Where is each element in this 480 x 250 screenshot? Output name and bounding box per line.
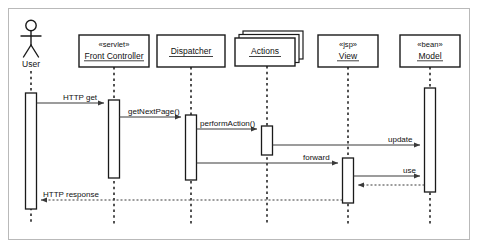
activation-model xyxy=(425,88,436,192)
message-get-next-page[interactable]: getNextPage() xyxy=(120,107,182,118)
message-http-get[interactable]: HTTP get xyxy=(37,93,105,104)
message-label-perform-action: performAction() xyxy=(200,119,255,128)
message-label-http-response: HTTP response xyxy=(43,190,99,199)
actor-icon xyxy=(21,20,41,57)
lifeline-view[interactable]: «jsp» View xyxy=(318,35,378,225)
lifeline-label-user: User xyxy=(22,59,40,69)
lifeline-actions[interactable]: Actions xyxy=(235,31,303,225)
sequence-diagram-canvas: User «servlet» Front Controller Dispatch… xyxy=(0,0,480,250)
lifeline-dispatcher[interactable]: Dispatcher xyxy=(157,35,225,225)
activation-actions xyxy=(262,126,273,155)
lifeline-label-front-controller: Front Controller xyxy=(84,51,143,61)
message-use[interactable]: use xyxy=(354,166,421,177)
activation-dispatcher xyxy=(186,115,197,180)
stereotype-front-controller: «servlet» xyxy=(99,40,130,49)
message-label-update: update xyxy=(388,135,413,144)
activation-front-controller xyxy=(109,100,120,178)
message-label-http-get: HTTP get xyxy=(63,93,98,102)
lifeline-label-model: Model xyxy=(418,51,441,61)
lifeline-label-dispatcher: Dispatcher xyxy=(171,46,212,56)
message-label-get-next-page: getNextPage() xyxy=(128,107,180,116)
activation-user xyxy=(26,93,37,209)
stereotype-model: «bean» xyxy=(417,40,442,49)
lifeline-user[interactable]: User xyxy=(21,20,41,225)
lifeline-model[interactable]: «bean» Model xyxy=(400,35,460,225)
message-label-use: use xyxy=(403,166,416,175)
message-label-forward: forward xyxy=(303,153,330,162)
lifeline-label-actions: Actions xyxy=(251,46,279,56)
lifeline-label-view: View xyxy=(339,51,358,61)
message-update[interactable]: update xyxy=(273,135,421,146)
sequence-diagram-svg: User «servlet» Front Controller Dispatch… xyxy=(0,0,480,250)
stereotype-view: «jsp» xyxy=(339,40,357,49)
activation-view xyxy=(343,158,354,203)
message-perform-action[interactable]: performAction() xyxy=(197,119,258,130)
